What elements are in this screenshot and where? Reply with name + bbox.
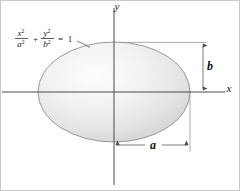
- a-dimension-label: a: [150, 138, 156, 152]
- figure-canvas: y x b a x2 a2 + y2 b2 = 1: [0, 0, 240, 191]
- equation-right-side: 1: [68, 34, 73, 44]
- ellipse-equation: x2 a2 + y2 b2 = 1: [15, 28, 72, 49]
- equation-denominator-2: b2: [43, 39, 51, 49]
- equation-numerator-2: y2: [43, 28, 51, 38]
- b-dimension-label: b: [207, 59, 213, 73]
- equation-operator: +: [33, 34, 38, 44]
- x-axis-label: x: [226, 82, 232, 94]
- equation-equals: =: [58, 34, 63, 44]
- equation-denominator-1: a2: [17, 39, 25, 49]
- ellipse-figure: y x b a x2 a2 + y2 b2 = 1: [0, 0, 240, 191]
- y-axis-label: y: [114, 0, 120, 12]
- equation-numerator-1: x2: [17, 28, 25, 38]
